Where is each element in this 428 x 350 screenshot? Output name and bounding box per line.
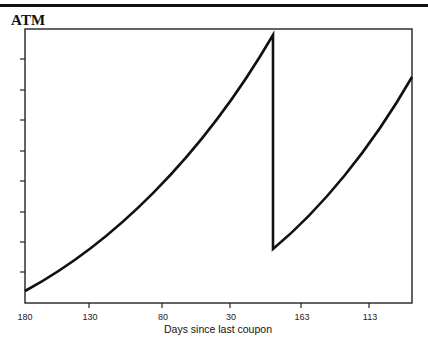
- x-tick-80: 80: [158, 312, 168, 322]
- x-tick-163: 163: [294, 312, 309, 322]
- chart-plot: 180 130 80 30 163 113 Days since last co…: [0, 0, 428, 350]
- x-tick-113: 113: [363, 312, 377, 322]
- x-tick-30: 30: [226, 312, 236, 322]
- x-axis-label: Days since last coupon: [164, 323, 272, 335]
- x-tick-labels: 180 130 80 30 163 113: [17, 312, 377, 322]
- x-tick-180: 180: [17, 312, 32, 322]
- x-tick-130: 130: [82, 312, 97, 322]
- plot-frame: [25, 29, 412, 303]
- x-axis-ticks: [89, 303, 369, 308]
- atm-curve: [25, 35, 412, 291]
- y-axis-ticks: [20, 59, 25, 272]
